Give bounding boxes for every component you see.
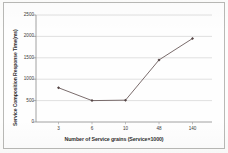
gridlines [36,15,212,101]
plot-area [0,0,228,153]
series-line [59,39,193,101]
figure-container: Service Composition Response Time(ms) Nu… [0,0,228,153]
y-axis-ticks [33,15,36,122]
data-point-3 [57,86,60,89]
series-markers [57,37,194,102]
data-point-6 [91,99,94,102]
